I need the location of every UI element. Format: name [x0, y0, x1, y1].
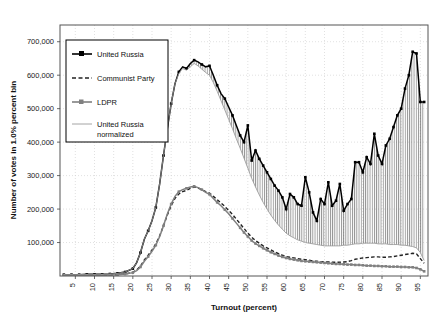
legend-label-united-russia: United Russia — [97, 50, 145, 59]
x-tick-label: 10 — [88, 283, 97, 291]
legend-label-ldpr: LDPR — [97, 98, 118, 107]
x-tick-label: 5 — [68, 283, 77, 287]
x-tick-label: 30 — [164, 283, 173, 291]
x-tick-label: 70 — [318, 283, 327, 291]
x-tick-label: 45 — [222, 283, 231, 291]
legend-label-united-russia-normalized-line2: normalized — [97, 130, 134, 139]
x-tick-label: 40 — [203, 283, 212, 291]
turnout-distribution-chart: 5101520253035404550556065707580859095 10… — [0, 0, 444, 317]
x-tick-label: 35 — [183, 283, 192, 291]
y-tick-label: 200,000 — [27, 205, 54, 214]
x-tick-label: 65 — [298, 283, 307, 291]
y-tick-label: 300,000 — [27, 171, 54, 180]
x-tick-label: 25 — [145, 283, 154, 291]
y-tick-label: 500,000 — [27, 104, 54, 113]
x-tick-label: 75 — [337, 283, 346, 291]
x-tick-label: 60 — [279, 283, 288, 291]
x-axis-title: Turnout (percent) — [211, 303, 277, 312]
x-tick-label: 15 — [107, 283, 116, 291]
y-axis-ticks: 100,000200,000300,000400,000500,000600,0… — [27, 37, 60, 247]
y-tick-label: 600,000 — [27, 71, 54, 80]
legend-label-communist-party: Communist Party — [97, 74, 155, 83]
x-axis-ticks: 5101520253035404550556065707580859095 — [68, 276, 422, 291]
x-tick-label: 55 — [260, 283, 269, 291]
legend-marker-united-russia — [79, 51, 84, 56]
x-tick-label: 20 — [126, 283, 135, 291]
legend-label-united-russia-normalized: United Russia — [97, 120, 145, 129]
x-tick-label: 50 — [241, 283, 250, 291]
x-tick-label: 85 — [375, 283, 384, 291]
y-tick-label: 700,000 — [27, 37, 54, 46]
x-tick-label: 95 — [413, 283, 422, 291]
chart-figure: 5101520253035404550556065707580859095 10… — [0, 0, 444, 317]
y-axis-title: Number of votes in 1.0% percent bin — [9, 81, 18, 219]
x-tick-label: 90 — [394, 283, 403, 291]
legend-marker-ldpr — [79, 100, 84, 105]
y-tick-label: 400,000 — [27, 138, 54, 147]
y-tick-label: 100,000 — [27, 238, 54, 247]
x-tick-label: 80 — [356, 283, 365, 291]
chart-legend: United Russia Communist Party LDPR Unite… — [66, 40, 168, 142]
